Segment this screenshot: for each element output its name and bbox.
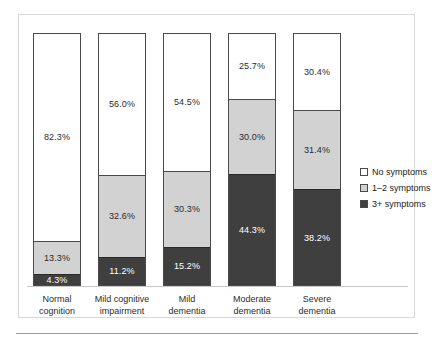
segment-value-label: 31.4% — [304, 145, 330, 155]
segment-value-label: 30.0% — [239, 132, 265, 142]
segment-3plus-symptoms[interactable]: 15.2% — [164, 247, 210, 285]
segment-value-label: 38.2% — [304, 233, 330, 243]
segment-3plus-symptoms[interactable]: 38.2% — [294, 189, 340, 285]
segment-1-2-symptoms[interactable]: 13.3% — [34, 241, 80, 274]
segment-1-2-symptoms[interactable]: 30.3% — [164, 171, 210, 247]
segment-value-label: 56.0% — [109, 99, 135, 109]
legend-item[interactable]: 3+ symptoms — [360, 197, 434, 211]
legend-item-label: 3+ symptoms — [372, 199, 426, 209]
lightgray-square-icon — [360, 184, 368, 192]
segment-3plus-symptoms[interactable]: 44.3% — [229, 174, 275, 285]
legend-item-label: No symptoms — [372, 167, 427, 177]
legend-item[interactable]: No symptoms — [360, 165, 434, 179]
plot-area: 82.3%13.3%4.3%Normalcognition56.0%32.6%1… — [19, 15, 416, 319]
segment-1-2-symptoms[interactable]: 32.6% — [99, 175, 145, 257]
white-square-icon — [360, 168, 368, 176]
stacked-bar[interactable]: 56.0%32.6%11.2% — [98, 33, 146, 286]
segment-no-symptoms[interactable]: 30.4% — [294, 34, 340, 110]
chart-frame: 82.3%13.3%4.3%Normalcognition56.0%32.6%1… — [18, 14, 415, 318]
x-axis-tick-label: Severedementia — [279, 294, 355, 317]
segment-value-label: 15.2% — [174, 261, 200, 271]
stacked-bar[interactable]: 30.4%31.4%38.2% — [293, 33, 341, 286]
stacked-bar[interactable]: 54.5%30.3%15.2% — [163, 33, 211, 286]
segment-value-label: 11.2% — [109, 266, 134, 276]
segment-value-label: 30.3% — [174, 204, 200, 214]
segment-value-label: 44.3% — [239, 225, 265, 235]
segment-value-label: 13.3% — [44, 253, 70, 263]
figure: 82.3%13.3%4.3%Normalcognition56.0%32.6%1… — [0, 0, 434, 346]
segment-3plus-symptoms[interactable]: 4.3% — [34, 274, 80, 285]
darkgray-square-icon — [360, 200, 368, 208]
segment-no-symptoms[interactable]: 82.3% — [34, 34, 80, 241]
segment-no-symptoms[interactable]: 56.0% — [99, 34, 145, 175]
segment-value-label: 32.6% — [109, 211, 135, 221]
segment-value-label: 25.7% — [239, 61, 265, 71]
axis-baseline — [27, 286, 408, 287]
segment-1-2-symptoms[interactable]: 30.0% — [229, 99, 275, 174]
segment-value-label: 30.4% — [304, 67, 330, 77]
segment-3plus-symptoms[interactable]: 11.2% — [99, 257, 145, 285]
segment-1-2-symptoms[interactable]: 31.4% — [294, 110, 340, 189]
legend-item[interactable]: 1–2 symptoms — [360, 181, 434, 195]
segment-value-label: 4.3% — [47, 275, 68, 285]
legend-item-label: 1–2 symptoms — [372, 183, 431, 193]
segment-no-symptoms[interactable]: 25.7% — [229, 34, 275, 99]
segment-value-label: 54.5% — [174, 97, 200, 107]
footer-divider — [16, 333, 418, 334]
stacked-bar[interactable]: 25.7%30.0%44.3% — [228, 33, 276, 286]
segment-no-symptoms[interactable]: 54.5% — [164, 34, 210, 171]
segment-value-label: 82.3% — [44, 132, 70, 142]
stacked-bar[interactable]: 82.3%13.3%4.3% — [33, 33, 81, 286]
chart-legend: No symptoms1–2 symptoms3+ symptoms — [360, 165, 434, 213]
